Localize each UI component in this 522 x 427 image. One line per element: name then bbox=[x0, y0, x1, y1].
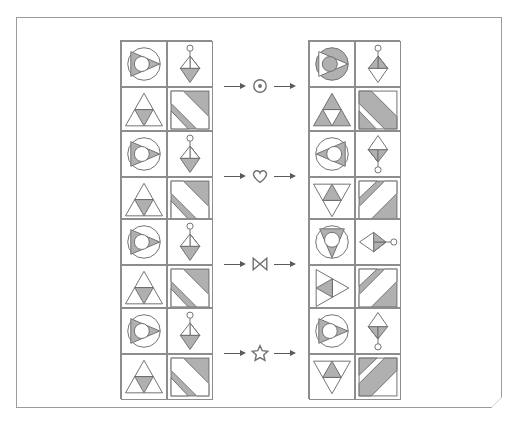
heart-operator[interactable] bbox=[249, 165, 271, 187]
cell-bottom-right[interactable] bbox=[167, 177, 213, 223]
circle-with-right-triangle-and-inner-circle-icon bbox=[122, 220, 166, 264]
circled-dot-operator[interactable] bbox=[249, 75, 271, 97]
cell-top-left[interactable] bbox=[309, 219, 355, 265]
triangle-with-inner-inverted-triangle-icon bbox=[310, 88, 354, 132]
circle-with-right-triangle-and-inner-circle-icon bbox=[310, 42, 354, 86]
output-grid-row-3[interactable] bbox=[308, 218, 400, 310]
triangle-with-inner-inverted-triangle-icon bbox=[310, 266, 354, 310]
cell-top-right[interactable] bbox=[355, 131, 401, 177]
output-grid-row-4[interactable] bbox=[308, 307, 400, 399]
triangle-with-inner-inverted-triangle-icon bbox=[310, 178, 354, 222]
square-with-diagonal-band-icon bbox=[168, 88, 212, 132]
pendant-rhombus-with-circle-top-icon bbox=[356, 132, 400, 176]
cell-top-right[interactable] bbox=[167, 308, 213, 354]
cell-bottom-left[interactable] bbox=[309, 177, 355, 223]
pendant-rhombus-with-circle-top-icon bbox=[168, 42, 212, 86]
arrow-left-1 bbox=[224, 81, 246, 91]
pendant-rhombus-with-circle-top-icon bbox=[168, 309, 212, 353]
output-grid-row-1[interactable] bbox=[308, 40, 400, 132]
cell-bottom-left[interactable] bbox=[309, 87, 355, 133]
triangle-with-inner-inverted-triangle-icon bbox=[122, 355, 166, 399]
puzzle-row-1 bbox=[17, 40, 503, 132]
arrow-left-3 bbox=[224, 259, 246, 269]
input-grid-row-4[interactable] bbox=[120, 307, 212, 399]
cell-bottom-right[interactable] bbox=[355, 265, 401, 311]
cell-top-right[interactable] bbox=[167, 219, 213, 265]
circle-with-right-triangle-and-inner-circle-icon bbox=[122, 132, 166, 176]
puzzle-row-3 bbox=[17, 218, 503, 310]
paper-sheet bbox=[16, 17, 502, 408]
square-with-diagonal-band-icon bbox=[356, 178, 400, 222]
bowtie-operator[interactable] bbox=[249, 253, 271, 275]
pendant-rhombus-with-circle-top-icon bbox=[356, 42, 400, 86]
square-with-diagonal-band-icon bbox=[168, 178, 212, 222]
cell-bottom-right[interactable] bbox=[167, 354, 213, 400]
star-operator[interactable] bbox=[249, 342, 271, 364]
input-grid-row-1[interactable] bbox=[120, 40, 212, 132]
cell-top-right[interactable] bbox=[355, 219, 401, 265]
cell-bottom-right[interactable] bbox=[167, 265, 213, 311]
arrow-left-4 bbox=[224, 348, 246, 358]
pendant-rhombus-with-circle-top-icon bbox=[356, 309, 400, 353]
puzzle-row-4 bbox=[17, 307, 503, 399]
circle-with-right-triangle-and-inner-circle-icon bbox=[310, 220, 354, 264]
triangle-with-inner-inverted-triangle-icon bbox=[122, 178, 166, 222]
arrow-left-2 bbox=[224, 171, 246, 181]
operator-group-4 bbox=[212, 307, 308, 399]
pendant-rhombus-with-circle-top-icon bbox=[356, 220, 400, 264]
cell-top-left[interactable] bbox=[121, 308, 167, 354]
cell-bottom-right[interactable] bbox=[167, 87, 213, 133]
operator-group-3 bbox=[212, 218, 308, 310]
cell-bottom-right[interactable] bbox=[355, 177, 401, 223]
output-grid-row-2[interactable] bbox=[308, 130, 400, 222]
pendant-rhombus-with-circle-top-icon bbox=[168, 220, 212, 264]
square-with-diagonal-band-icon bbox=[356, 355, 400, 399]
cell-top-right[interactable] bbox=[355, 308, 401, 354]
square-with-diagonal-band-icon bbox=[168, 266, 212, 310]
cell-top-left[interactable] bbox=[121, 41, 167, 87]
cell-bottom-right[interactable] bbox=[355, 87, 401, 133]
cell-bottom-left[interactable] bbox=[121, 354, 167, 400]
puzzle-rows bbox=[17, 18, 503, 409]
cell-top-left[interactable] bbox=[309, 41, 355, 87]
cell-top-left[interactable] bbox=[309, 131, 355, 177]
operator-group-1 bbox=[212, 40, 308, 132]
cell-top-right[interactable] bbox=[355, 41, 401, 87]
input-grid-row-3[interactable] bbox=[120, 218, 212, 310]
cell-bottom-right[interactable] bbox=[355, 354, 401, 400]
arrow-right-2 bbox=[274, 171, 296, 181]
puzzle-row-2 bbox=[17, 130, 503, 222]
arrow-right-1 bbox=[274, 81, 296, 91]
cell-bottom-left[interactable] bbox=[121, 87, 167, 133]
cell-bottom-left[interactable] bbox=[121, 265, 167, 311]
cell-bottom-left[interactable] bbox=[121, 177, 167, 223]
circle-with-right-triangle-and-inner-circle-icon bbox=[310, 309, 354, 353]
square-with-diagonal-band-icon bbox=[356, 266, 400, 310]
pendant-rhombus-with-circle-top-icon bbox=[168, 132, 212, 176]
cell-top-left[interactable] bbox=[121, 131, 167, 177]
square-with-diagonal-band-icon bbox=[168, 355, 212, 399]
cell-top-right[interactable] bbox=[167, 41, 213, 87]
circle-with-right-triangle-and-inner-circle-icon bbox=[122, 309, 166, 353]
cell-bottom-left[interactable] bbox=[309, 354, 355, 400]
input-grid-row-2[interactable] bbox=[120, 130, 212, 222]
circle-with-right-triangle-and-inner-circle-icon bbox=[310, 132, 354, 176]
triangle-with-inner-inverted-triangle-icon bbox=[122, 88, 166, 132]
circle-with-right-triangle-and-inner-circle-icon bbox=[122, 42, 166, 86]
cell-bottom-left[interactable] bbox=[309, 265, 355, 311]
puzzle-page bbox=[0, 0, 522, 427]
triangle-with-inner-inverted-triangle-icon bbox=[310, 355, 354, 399]
square-with-diagonal-band-icon bbox=[356, 88, 400, 132]
arrow-right-3 bbox=[274, 259, 296, 269]
cell-top-right[interactable] bbox=[167, 131, 213, 177]
cell-top-left[interactable] bbox=[309, 308, 355, 354]
triangle-with-inner-inverted-triangle-icon bbox=[122, 266, 166, 310]
operator-group-2 bbox=[212, 130, 308, 222]
cell-top-left[interactable] bbox=[121, 219, 167, 265]
arrow-right-4 bbox=[274, 348, 296, 358]
